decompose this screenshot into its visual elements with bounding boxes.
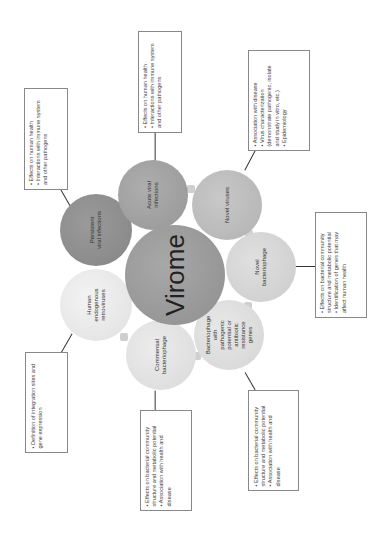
node-human-endogenous-retroviruses: Human endogenous retroviruses [60, 269, 132, 341]
box-item: • Definition of integration sites and ge… [29, 357, 43, 448]
box-commensal: • Effects on bacterial community structu… [140, 410, 192, 511]
connector-novel-bacteriophage [295, 266, 315, 267]
node-label: Novel viruses [224, 175, 231, 235]
box-item: • Effects on bacterial community structu… [144, 415, 158, 506]
box-herv: • Definition of integration sites and ge… [25, 352, 68, 453]
node-novel-viruses: Novel viruses [192, 170, 262, 240]
box-acute: • Effects on human health • Interactions… [138, 31, 182, 133]
box-persistent: • Effects on human health • Interactions… [24, 88, 68, 190]
node-label: Bacteriophage with pathogenic potential … [205, 305, 254, 365]
box-item: • Effects on human health [28, 93, 35, 185]
box-item: • Effects on bacterial community structu… [319, 217, 333, 313]
connector-novel-viruses [244, 150, 255, 170]
connector-acute [154, 132, 155, 162]
node-label: Persistent viral infections [89, 200, 103, 260]
node-label: Acute viral infections [146, 165, 160, 225]
node-label: Human endogenous retroviruses [86, 275, 107, 335]
box-item: • Identification of genes that may affec… [333, 217, 347, 313]
connector-commensal [154, 391, 155, 411]
node-label: Novel bacteriophage [254, 237, 268, 297]
box-item: • Association with health and disease [266, 395, 280, 486]
box-item: • Association with disease [252, 55, 259, 146]
node-novel-bacteriophage: Novel bacteriophage [226, 232, 296, 302]
box-item: • Effects on bacterial community structu… [252, 395, 266, 486]
box-item: • Epidemiology [281, 55, 288, 146]
box-item: • Effects on human health [142, 36, 149, 128]
connector-herv [60, 333, 72, 353]
node-virome: Virome [125, 225, 225, 325]
box-item: • Interactions with immune system and ot… [149, 36, 163, 128]
connector-persistent [59, 188, 70, 206]
joint [120, 333, 128, 341]
virome-title: Virome [161, 215, 189, 335]
box-novel-bacteriophage: • Effects on bacterial community structu… [315, 212, 367, 318]
box-item: • Association with health and disease [158, 415, 172, 506]
box-bacteriophage-pathogenic: • Effects on bacterial community structu… [248, 390, 299, 491]
box-item: • Virus characterization (demonstrate pa… [259, 55, 281, 146]
box-novel-viruses: • Association with disease • Virus chara… [248, 50, 310, 151]
connector-bacteriophage-pathogenic [244, 372, 255, 390]
box-item: • Interactions with immune system and ot… [35, 93, 49, 185]
